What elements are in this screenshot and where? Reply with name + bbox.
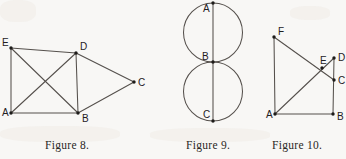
figure-8-group: EDCAB: [2, 37, 145, 124]
vertex-dot-B: [331, 112, 334, 115]
vertex-dot-A: [273, 112, 276, 115]
figure-9-group: ABC: [184, 1, 243, 122]
vertex-label-A: A: [266, 109, 273, 120]
edge-DB: [333, 58, 334, 114]
vertex-dot-B: [76, 111, 79, 114]
vertex-label-B: B: [82, 113, 89, 124]
vertex-label-C: C: [138, 77, 145, 88]
vertex-label-E: E: [320, 55, 327, 66]
figures-canvas: EDCAB ABC FDECAB: [0, 0, 346, 159]
vertex-dot-E: [9, 46, 12, 49]
vertex-dot-D: [332, 56, 335, 59]
vertex-label-D: D: [80, 41, 87, 52]
vertex-dot-C: [211, 119, 214, 122]
vertex-dot-A: [211, 1, 214, 4]
edge-DB: [76, 53, 78, 113]
vertex-dot-E: [320, 66, 323, 69]
vertex-label-A: A: [2, 107, 9, 118]
vertex-label-B: B: [337, 111, 344, 122]
edge-DC: [76, 53, 134, 82]
edge-AD: [275, 58, 334, 114]
vertex-label-B: B: [202, 51, 209, 62]
vertex-label-C: C: [338, 75, 345, 86]
figure-9-caption: Figure 9.: [186, 139, 230, 151]
figure-10-caption: Figure 10.: [272, 139, 322, 151]
edge-FA: [274, 37, 275, 114]
vertex-label-E: E: [2, 37, 9, 48]
vertex-label-F: F: [278, 26, 284, 37]
vertex-dot-F: [272, 35, 275, 38]
vertex-dot-B: [211, 60, 214, 63]
vertex-dot-C: [132, 80, 135, 83]
figure-plate: EDCAB ABC FDECAB Figure 8. Figure 9. Fig…: [0, 0, 346, 159]
edge-AD: [11, 53, 76, 113]
vertex-label-C: C: [203, 109, 210, 120]
edge-ED: [11, 48, 76, 53]
vertex-label-A: A: [203, 3, 210, 14]
figure-10-group: FDECAB: [266, 26, 345, 122]
figure-8-caption: Figure 8.: [45, 139, 89, 151]
vertex-dot-C: [332, 78, 335, 81]
vertex-dot-A: [9, 111, 12, 114]
edge-BC: [78, 82, 134, 113]
vertex-dot-D: [74, 51, 77, 54]
vertex-label-D: D: [338, 52, 345, 63]
